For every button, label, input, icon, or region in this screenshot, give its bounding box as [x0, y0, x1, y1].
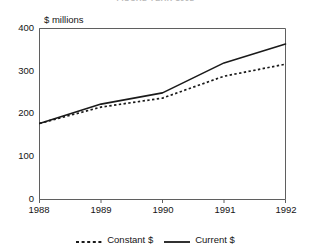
- dashed-line-swatch-icon: [76, 231, 102, 249]
- series-line-current: [40, 44, 286, 123]
- y-tick-label-400: 400: [4, 23, 34, 33]
- y-tick-label-100: 100: [4, 151, 34, 161]
- legend-entry-constant[interactable]: Constant $: [76, 231, 153, 249]
- x-axis-ticks: [40, 200, 286, 204]
- legend-entry-current[interactable]: Current $: [164, 231, 235, 249]
- x-tick-label-1992: 1992: [266, 205, 306, 215]
- x-tick-label-1989: 1989: [81, 205, 121, 215]
- solid-line-swatch-icon: [164, 231, 190, 249]
- y-tick-label-200: 200: [4, 108, 34, 118]
- axis-frame: [40, 29, 286, 200]
- plot-area: [39, 28, 285, 199]
- y-tick-label-300: 300: [4, 66, 34, 76]
- chart-title: FISCAL YEAR 1992: [0, 0, 311, 2]
- x-tick-label-1988: 1988: [19, 205, 59, 215]
- chart-legend: Constant $ Current $: [0, 231, 311, 249]
- line-chart-figure: FISCAL YEAR 1992 $ millions 400 300 200 …: [0, 0, 311, 252]
- legend-label-current: Current $: [195, 235, 235, 245]
- series-line-constant: [40, 64, 286, 123]
- y-axis-unit-caption: $ millions: [44, 14, 84, 25]
- y-tick-label-0: 0: [4, 194, 34, 204]
- x-tick-label-1991: 1991: [205, 205, 245, 215]
- x-tick-label-1990: 1990: [143, 205, 183, 215]
- legend-label-constant: Constant $: [107, 235, 153, 245]
